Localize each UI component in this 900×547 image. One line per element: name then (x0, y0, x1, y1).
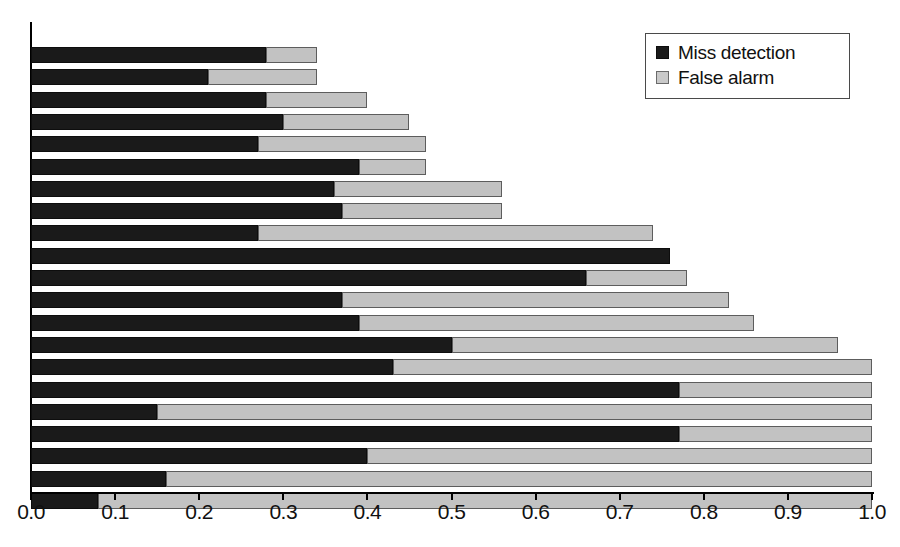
x-axis-tick-label: 0.8 (690, 500, 718, 524)
x-axis-tick-label: 0.7 (606, 500, 634, 524)
bar-segment-miss-detection (31, 426, 679, 442)
bar-segment-false-alarm (266, 47, 316, 63)
bar-segment-false-alarm (359, 315, 754, 331)
bar-segment-miss-detection (31, 136, 258, 152)
x-axis-tick (451, 492, 453, 500)
x-axis-tick-label: 0.4 (354, 500, 382, 524)
bar-segment-false-alarm (342, 292, 729, 308)
bar-segment-miss-detection (31, 359, 393, 375)
bar-segment-false-alarm (266, 92, 367, 108)
bar-segment-false-alarm (166, 471, 872, 487)
legend-label-miss-detection: Miss detection (678, 42, 795, 64)
bar-segment-false-alarm (208, 69, 317, 85)
legend-item-miss-detection: Miss detection (656, 40, 839, 65)
bar-segment-false-alarm (452, 337, 839, 353)
light-square-icon (656, 71, 669, 84)
bar-segment-miss-detection (31, 382, 679, 398)
bar-segment-false-alarm (157, 404, 872, 420)
x-axis-tick-label: 0.6 (522, 500, 550, 524)
bar-segment-false-alarm (393, 359, 872, 375)
bar-segment-miss-detection (31, 292, 342, 308)
bar-segment-miss-detection (31, 248, 670, 264)
bar-segment-false-alarm (334, 181, 502, 197)
x-axis-tick-label: 0.3 (269, 500, 297, 524)
bar-segment-false-alarm (367, 448, 872, 464)
chart-legend: Miss detection False alarm (645, 33, 850, 99)
x-axis-tick (282, 492, 284, 500)
bar-segment-false-alarm (342, 203, 502, 219)
bar-segment-miss-detection (31, 471, 166, 487)
bar-segment-miss-detection (31, 203, 342, 219)
bar-segment-miss-detection (31, 270, 586, 286)
bar-segment-false-alarm (258, 136, 426, 152)
legend-label-false-alarm: False alarm (678, 67, 774, 89)
stacked-bar-chart: 0.00.10.20.30.40.50.60.70.80.91.0 Miss d… (0, 0, 900, 547)
bar-segment-miss-detection (31, 92, 266, 108)
x-axis-tick (535, 492, 537, 500)
x-axis-tick (198, 492, 200, 500)
x-axis-tick-label: 0.0 (17, 500, 45, 524)
legend-item-false-alarm: False alarm (656, 65, 839, 90)
bar-segment-miss-detection (31, 69, 208, 85)
x-axis-tick-label: 0.9 (774, 500, 802, 524)
x-axis-tick-label: 0.1 (101, 500, 129, 524)
bar-segment-miss-detection (31, 404, 157, 420)
bar-segment-false-alarm (98, 493, 872, 509)
x-axis-tick (30, 492, 32, 500)
bar-segment-miss-detection (31, 337, 452, 353)
x-axis-tick (619, 492, 621, 500)
bar-segment-false-alarm (679, 426, 872, 442)
x-axis-tick (366, 492, 368, 500)
bar-segment-miss-detection (31, 181, 334, 197)
x-axis-tick-label: 1.0 (858, 500, 886, 524)
bar-segment-false-alarm (283, 114, 409, 130)
x-axis-tick-label: 0.2 (185, 500, 213, 524)
x-axis-tick (114, 492, 116, 500)
bar-segment-false-alarm (258, 225, 653, 241)
x-axis-tick (703, 492, 705, 500)
bar-segment-false-alarm (359, 159, 426, 175)
bar-segment-miss-detection (31, 448, 367, 464)
bar-segment-miss-detection (31, 225, 258, 241)
bar-segment-miss-detection (31, 114, 283, 130)
x-axis-tick (787, 492, 789, 500)
bar-segment-miss-detection (31, 315, 359, 331)
bar-segment-false-alarm (679, 382, 872, 398)
dark-square-icon (656, 46, 669, 59)
bar-segment-miss-detection (31, 159, 359, 175)
x-axis-tick (871, 492, 873, 500)
x-axis-tick-label: 0.5 (438, 500, 466, 524)
bar-segment-false-alarm (586, 270, 687, 286)
bar-segment-miss-detection (31, 47, 266, 63)
